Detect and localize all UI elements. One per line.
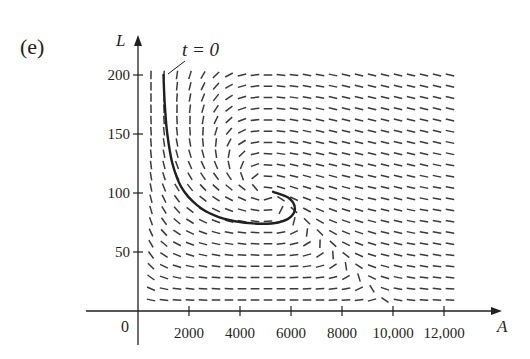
slope-segment — [201, 71, 205, 78]
slope-segment — [433, 119, 441, 121]
slope-segment — [446, 74, 454, 76]
slope-segment — [329, 186, 337, 188]
slope-segment — [368, 265, 376, 268]
slope-segment — [316, 85, 324, 87]
annotation-leader-line — [168, 61, 185, 74]
slope-segment — [446, 209, 454, 211]
slope-segment — [303, 153, 311, 155]
slope-segment — [355, 85, 363, 87]
slope-segment — [160, 264, 168, 268]
slope-segment — [420, 119, 428, 121]
slope-segment — [150, 206, 152, 214]
slope-segment — [174, 195, 179, 202]
slope-segment — [161, 229, 167, 235]
slope-segment — [216, 138, 217, 147]
slope-segment — [433, 232, 441, 233]
slope-segment — [251, 108, 260, 109]
slope-segment — [290, 119, 298, 120]
slope-segment — [186, 242, 194, 245]
slope-segment — [160, 276, 168, 279]
slope-segment — [290, 231, 298, 235]
slope-segment — [420, 198, 428, 200]
slope-segment — [407, 277, 415, 278]
slope-segment — [355, 141, 363, 143]
slope-segment — [446, 288, 455, 289]
slope-segment — [151, 149, 152, 158]
slope-segment — [277, 131, 286, 132]
slope-segment — [368, 209, 376, 211]
slope-segment — [381, 254, 389, 256]
slope-segment — [316, 253, 323, 258]
x-tick-label: 10,000 — [372, 325, 413, 341]
slope-segment — [368, 97, 376, 99]
slope-segment — [303, 254, 311, 256]
slope-segment — [394, 232, 402, 234]
slope-segment — [212, 277, 221, 278]
slope-segment — [212, 196, 219, 201]
slope-segment — [370, 285, 374, 292]
slope-segment — [303, 175, 311, 177]
slope-segment — [407, 119, 415, 121]
slope-segment — [173, 288, 182, 289]
slope-segment — [199, 266, 208, 267]
slope-segment — [407, 220, 415, 222]
slope-segment — [176, 71, 177, 80]
slope-segment — [329, 119, 337, 121]
slope-segment — [407, 288, 416, 289]
slope-segment — [329, 164, 337, 166]
slope-segment — [316, 186, 324, 189]
slope-segment — [176, 150, 178, 158]
slope-segment — [433, 254, 442, 255]
slope-segment — [446, 243, 455, 244]
slope-segment — [186, 254, 194, 256]
slope-segment — [420, 153, 428, 155]
slope-segment — [433, 220, 441, 222]
slope-segment — [420, 108, 428, 110]
slope-segment — [394, 175, 402, 177]
slope-segment — [394, 130, 402, 132]
slope-segment — [433, 85, 441, 87]
slope-segment — [407, 85, 415, 87]
slope-segment — [381, 231, 389, 233]
slope-segment — [201, 94, 204, 102]
slope-segment — [306, 228, 307, 237]
slope-segment — [329, 175, 337, 177]
slope-segment — [173, 300, 182, 301]
slope-segment — [407, 164, 415, 166]
slope-segment — [355, 74, 363, 76]
slope-segment — [251, 86, 260, 87]
y-axis-label: L — [115, 31, 125, 50]
slope-segment — [381, 153, 389, 155]
slope-segment — [316, 208, 324, 211]
slope-segment — [277, 255, 286, 256]
slope-segment — [177, 82, 178, 91]
slope-segment — [225, 84, 232, 88]
slope-segment — [199, 277, 208, 278]
slope-segment — [407, 175, 415, 177]
slope-segment — [433, 142, 441, 144]
slope-segment — [147, 287, 155, 291]
slope-segment — [368, 108, 376, 110]
slope-segment — [420, 142, 428, 144]
slope-segment — [189, 150, 191, 158]
slope-segment — [381, 209, 389, 211]
slope-segment — [342, 275, 349, 279]
slope-segment — [225, 266, 234, 267]
slope-segment — [446, 97, 454, 99]
slope-segment — [303, 142, 311, 144]
slope-segment — [303, 97, 311, 99]
slope-segment — [190, 104, 191, 113]
y-tick-label: 150 — [108, 126, 131, 142]
slope-segment — [342, 130, 350, 132]
slope-segment — [407, 243, 415, 245]
x-tick-label: 4000 — [225, 325, 255, 341]
slope-segment — [420, 175, 428, 177]
slope-segment — [163, 161, 165, 169]
slope-segment — [433, 243, 441, 244]
slope-segment — [407, 187, 415, 189]
slope-segment — [316, 277, 325, 278]
slope-segment — [251, 221, 260, 222]
slope-segment — [228, 150, 230, 158]
slope-segment — [173, 277, 181, 279]
slope-segment — [277, 86, 286, 87]
